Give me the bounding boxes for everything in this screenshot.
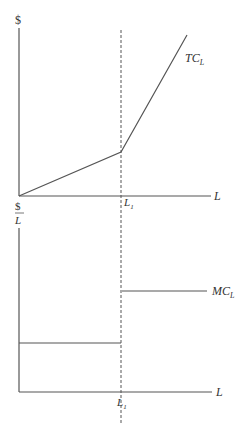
bottom-y-axis-label-num: $ [15,200,21,212]
tc-label: TCL [185,51,205,67]
figure-caption-partial [18,416,228,423]
top-x-axis-label: L [213,189,221,203]
mc-label: MCL [211,284,235,300]
top-l1-label: L1 [123,196,134,211]
bottom-l1-label: L1 [116,396,127,411]
bottom-y-axis-label-den: L [14,214,21,226]
tc-curve [19,35,187,196]
labor-cost-diagram: $ L TCL L1 $ L L MCL L1 [0,0,243,423]
bottom-x-axis-label: L [215,385,223,399]
top-y-axis-label: $ [15,13,21,27]
